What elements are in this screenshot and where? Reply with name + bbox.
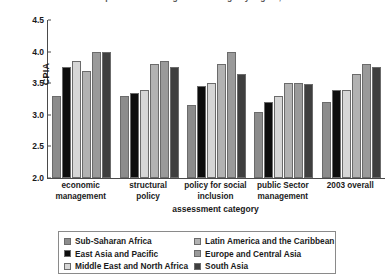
- bar: [187, 105, 196, 178]
- bar: [150, 64, 159, 178]
- chart-legend: Sub-Saharan AfricaLatin America and the …: [58, 231, 336, 274]
- bar: [322, 102, 331, 178]
- bar-group: [254, 20, 313, 178]
- legend-label: Sub-Saharan Africa: [75, 237, 152, 245]
- bar: [372, 67, 381, 178]
- bar: [82, 71, 91, 178]
- legend-item[interactable]: East Asia and Pacific: [64, 248, 188, 261]
- x-tick-label: economicmanagement: [48, 181, 114, 203]
- bar: [197, 86, 206, 178]
- bar: [130, 93, 139, 178]
- bar: [274, 96, 283, 178]
- y-tick-label: 4.5: [32, 16, 44, 25]
- legend-label: Middle East and North Africa: [75, 262, 188, 270]
- bar-group: [322, 20, 381, 178]
- chart-title: Comparison of average CPIA ratings by re…: [0, 0, 389, 3]
- legend-swatch-icon: [194, 263, 201, 270]
- bar: [62, 67, 71, 178]
- bar: [362, 64, 371, 178]
- bar: [102, 52, 111, 178]
- bar: [342, 90, 351, 178]
- legend-label: Latin America and the Caribbean: [205, 237, 334, 245]
- bar: [207, 83, 216, 178]
- bar: [254, 112, 263, 178]
- chart-title-clipped: Comparison of average CPIA ratings by re…: [0, 0, 389, 3]
- bar-group: [187, 20, 246, 178]
- bar: [332, 90, 341, 178]
- bar: [352, 74, 361, 178]
- x-tick-label: structuralpolicy: [115, 181, 181, 203]
- legend-item[interactable]: South Asia: [194, 260, 334, 273]
- plot-area: CPIA 2.02.53.03.54.04.5: [47, 20, 385, 179]
- bar: [227, 52, 236, 178]
- bar-group: [120, 20, 179, 178]
- bar: [92, 52, 101, 178]
- x-tick-label: 2003 overall: [317, 181, 383, 203]
- bar-group: [52, 20, 111, 178]
- legend-swatch-icon: [64, 263, 71, 270]
- legend-item[interactable]: Europe and Central Asia: [194, 248, 334, 261]
- bar: [304, 84, 313, 178]
- legend-label: South Asia: [205, 262, 248, 270]
- x-tick-label: policy for socialinclusion: [182, 181, 248, 203]
- legend-label: East Asia and Pacific: [75, 250, 158, 258]
- x-tick-label: public Sectormanagement: [250, 181, 316, 203]
- legend-item[interactable]: Latin America and the Caribbean: [194, 235, 334, 248]
- bar: [294, 83, 303, 178]
- legend-swatch-icon: [64, 250, 71, 257]
- bar: [264, 102, 273, 178]
- bar: [237, 74, 246, 178]
- legend-item[interactable]: Middle East and North Africa: [64, 260, 188, 273]
- legend-label: Europe and Central Asia: [205, 250, 301, 258]
- bar: [170, 67, 179, 178]
- y-tick-label: 3.5: [32, 79, 44, 88]
- bar: [284, 83, 293, 178]
- legend-swatch-icon: [64, 238, 71, 245]
- bar: [52, 96, 61, 178]
- legend-swatch-icon: [194, 238, 201, 245]
- y-tick-label: 2.0: [32, 174, 44, 183]
- legend-item[interactable]: Sub-Saharan Africa: [64, 235, 188, 248]
- y-tick-label: 3.0: [32, 111, 44, 120]
- legend-swatch-icon: [194, 250, 201, 257]
- bar: [160, 61, 169, 178]
- bar: [217, 64, 226, 178]
- cpia-bar-chart: Comparison of average CPIA ratings by re…: [0, 0, 389, 279]
- bar: [120, 96, 129, 178]
- bar: [72, 61, 81, 178]
- y-tick-label: 4.0: [32, 47, 44, 56]
- bar-groups: [48, 20, 385, 178]
- x-axis-tick-labels: economicmanagementstructuralpolicypolicy…: [47, 181, 384, 203]
- bar: [140, 90, 149, 178]
- x-axis-title: assessment category: [47, 204, 384, 214]
- y-tick-label: 2.5: [32, 142, 44, 151]
